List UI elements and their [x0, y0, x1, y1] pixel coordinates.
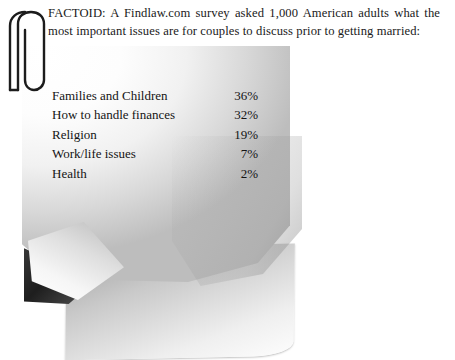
issue-label: How to handle finances — [52, 105, 210, 124]
list-item: How to handle finances 32% — [52, 105, 276, 124]
list-item: Families and Children 36% — [52, 86, 276, 105]
issue-list: Families and Children 36% How to handle … — [52, 86, 276, 183]
list-item: Health 2% — [52, 164, 276, 183]
issue-label: Religion — [52, 125, 210, 144]
issue-value: 19% — [210, 125, 258, 144]
issue-label: Work/life issues — [52, 144, 210, 163]
issue-value: 2% — [210, 164, 258, 183]
issue-value: 7% — [210, 144, 258, 163]
issue-label: Health — [52, 164, 210, 183]
issue-value: 36% — [210, 86, 258, 105]
issue-value: 32% — [210, 105, 258, 124]
list-item: Religion 19% — [52, 125, 276, 144]
issue-label: Families and Children — [52, 86, 210, 105]
list-item: Work/life issues 7% — [52, 144, 276, 163]
factoid-intro-text: FACTOID: A Findlaw.com survey asked 1,00… — [48, 4, 440, 40]
